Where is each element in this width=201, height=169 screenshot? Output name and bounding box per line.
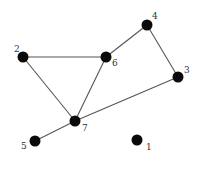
edge-7-5 — [35, 121, 75, 141]
node-5 — [30, 136, 41, 147]
graph-diagram: 1234567 — [0, 0, 201, 169]
node-label-7: 7 — [82, 123, 88, 133]
node-7 — [70, 116, 81, 127]
edges-layer — [23, 25, 178, 141]
edge-4-3 — [147, 25, 178, 77]
node-label-5: 5 — [21, 141, 27, 151]
node-label-4: 4 — [152, 11, 158, 21]
node-6 — [101, 52, 112, 63]
edge-6-4 — [106, 25, 147, 57]
node-label-1: 1 — [146, 142, 152, 152]
edge-2-7 — [23, 57, 75, 121]
node-label-2: 2 — [14, 44, 20, 54]
node-4 — [142, 20, 153, 31]
node-label-6: 6 — [112, 58, 118, 68]
labels-layer: 1234567 — [14, 11, 190, 152]
edge-3-7 — [75, 77, 178, 121]
edge-6-7 — [75, 57, 106, 121]
nodes-layer — [18, 20, 184, 147]
node-label-3: 3 — [184, 65, 190, 75]
node-3 — [173, 72, 184, 83]
node-1 — [132, 135, 143, 146]
